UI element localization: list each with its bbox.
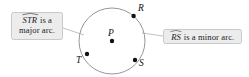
point-t-dot bbox=[85, 52, 89, 56]
point-label-s: S bbox=[139, 59, 144, 69]
callout-minor-arc: RS is a minor arc. bbox=[163, 29, 242, 44]
point-label-t: T bbox=[76, 56, 81, 66]
point-r-dot bbox=[131, 14, 135, 18]
callout-left-suffix: is a bbox=[38, 15, 52, 25]
arc-geometry-figure: STR is a major arc. RS is a minor arc. R… bbox=[0, 0, 249, 77]
callout-major-arc: STR is a major arc. bbox=[11, 12, 63, 40]
point-label-r: R bbox=[138, 4, 144, 14]
point-p-dot bbox=[110, 39, 114, 43]
arc-notation-rs-text: RS bbox=[171, 32, 181, 42]
arc-notation-str: STR bbox=[22, 15, 38, 25]
callout-right-suffix: is a minor arc. bbox=[181, 32, 234, 42]
callout-left-line2: major arc. bbox=[12, 25, 62, 35]
point-s-dot bbox=[133, 58, 137, 62]
leader-line-right bbox=[142, 33, 163, 36]
arc-notation-str-text: STR bbox=[23, 15, 38, 25]
point-label-p: P bbox=[108, 29, 114, 39]
arc-notation-rs: RS bbox=[171, 32, 182, 42]
